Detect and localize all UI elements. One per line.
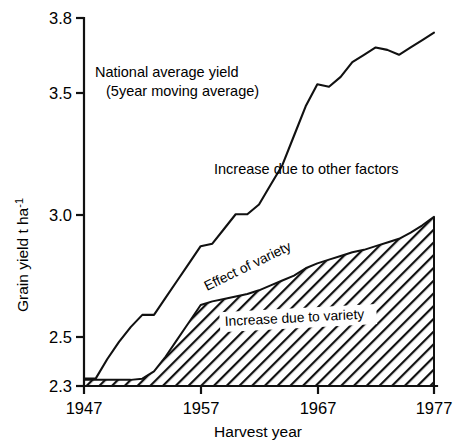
x-tick-label-1947: 1947 [66,399,103,417]
annotation-other-factors: Increase due to other factors [214,161,399,177]
annotation-national-average-line2: (5year moving average) [106,83,259,99]
y-tick-label-2-5: 2.5 [49,328,72,346]
y-tick-label-2-3: 2.3 [49,377,72,395]
y-tick-label-3-5: 3.5 [49,84,72,102]
svg-text:Grain yield t ha-1: Grain yield t ha-1 [13,198,31,312]
x-tick-label-1977: 1977 [416,399,453,417]
y-axis-title-exponent: -1 [13,198,25,208]
x-tick-label-1957: 1957 [183,399,220,417]
variety-band [84,217,434,386]
x-tick-labels: 1947 1957 1967 1977 [66,399,453,417]
y-tick-labels: 3.8 3.5 3.0 2.5 2.3 [49,9,72,395]
grain-yield-figure: 3.8 3.5 3.0 2.5 2.3 1947 1957 1967 1977 … [0,0,470,444]
y-axis-title: Grain yield t ha-1 [13,198,31,312]
y-tick-label-3-8: 3.8 [49,9,72,27]
x-axis-title: Harvest year [214,423,302,440]
y-axis-title-text: Grain yield t ha [14,207,31,312]
annotation-national-average: National average yield (5year moving ave… [95,64,259,99]
y-tick-label-3-0: 3.0 [49,206,72,224]
chart-svg: 3.8 3.5 3.0 2.5 2.3 1947 1957 1967 1977 … [0,0,470,444]
annotation-national-average-line1: National average yield [95,64,238,80]
x-tick-label-1967: 1967 [300,399,337,417]
